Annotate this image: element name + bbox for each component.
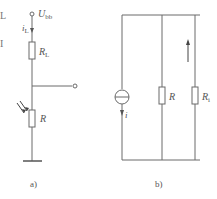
left-fragment-2: I — [0, 38, 3, 49]
current-sub: L — [25, 27, 29, 35]
resistor-ri-label: R — [201, 91, 208, 102]
current-arrow-icon — [30, 28, 34, 33]
resistor-ri — [192, 87, 198, 104]
load-resistor-label: R — [38, 46, 45, 57]
svg-text:Ubb: Ubb — [38, 8, 53, 21]
svg-text:RL: RL — [38, 46, 49, 59]
resistor-r — [159, 87, 165, 104]
resistor-r-label: R — [168, 91, 175, 102]
supply-terminal — [30, 12, 34, 16]
light-rays-icon — [17, 101, 29, 113]
left-fragment-1: L — [0, 10, 6, 21]
caption-a: a) — [30, 179, 37, 189]
source-current-label: i — [125, 110, 128, 120]
svg-text:iL: iL — [22, 23, 29, 35]
source-current-arrow-icon — [120, 110, 124, 116]
caption-b: b) — [155, 179, 163, 189]
circuit-diagrams: L I Ubb iL RL R — [0, 0, 217, 199]
load-resistor-sub: L — [45, 51, 49, 59]
output-terminal — [73, 84, 77, 88]
load-resistor — [29, 42, 35, 59]
svg-text:Ri: Ri — [201, 91, 210, 104]
figure-b: i R Ri b) — [115, 15, 210, 189]
supply-sub: bb — [45, 13, 53, 21]
figure-a: Ubb iL RL R a) — [17, 8, 77, 189]
photo-resistor — [29, 110, 35, 127]
resistor-ri-sub: i — [208, 96, 210, 104]
photo-resistor-label: R — [39, 113, 46, 124]
